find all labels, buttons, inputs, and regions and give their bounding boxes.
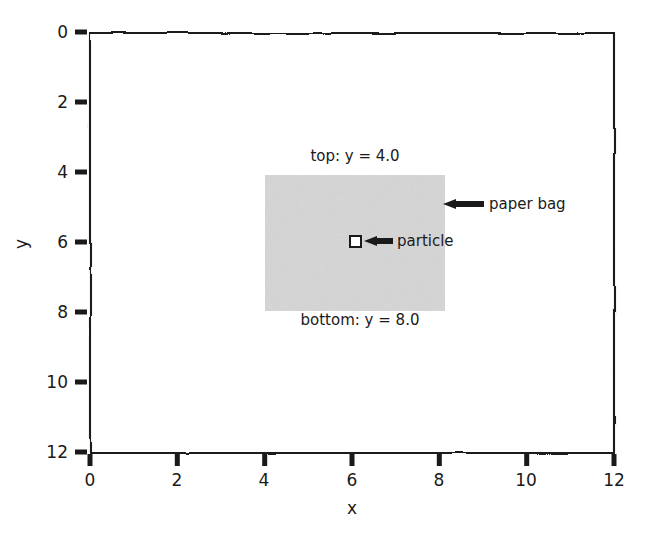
x-tick-12 <box>612 454 617 466</box>
particle-square-icon <box>350 236 361 247</box>
x-axis-title: x <box>332 498 372 518</box>
x-tick-10 <box>524 454 529 466</box>
particle-marker <box>350 236 361 247</box>
bag-bottom-annotation: bottom: y = 8.0 <box>265 311 455 329</box>
x-tick-6 <box>350 454 355 466</box>
x-axis-ticks <box>88 454 617 466</box>
x-tick-label-10: 10 <box>506 470 546 490</box>
x-tick-2 <box>175 454 180 466</box>
y-tick-6 <box>75 240 87 245</box>
y-tick-label-6: 6 <box>28 232 68 252</box>
x-tick-label-8: 8 <box>419 470 459 490</box>
paper-bag-arrow <box>443 199 484 209</box>
y-tick-0 <box>75 30 87 35</box>
y-tick-label-8: 8 <box>28 302 68 322</box>
chart-canvas <box>0 0 652 534</box>
x-tick-label-0: 0 <box>70 470 110 490</box>
x-tick-label-6: 6 <box>332 470 372 490</box>
y-tick-12 <box>75 450 87 455</box>
x-tick-8 <box>437 454 442 466</box>
chart-figure: 0 2 4 6 8 10 12 0 2 4 6 8 10 12 y x top:… <box>0 0 652 534</box>
y-tick-label-2: 2 <box>28 92 68 112</box>
y-tick-2 <box>75 100 87 105</box>
particle-annotation: particle <box>397 232 454 250</box>
x-tick-label-4: 4 <box>244 470 284 490</box>
y-tick-10 <box>75 380 87 385</box>
y-tick-label-12: 12 <box>28 442 68 462</box>
x-tick-label-2: 2 <box>157 470 197 490</box>
y-tick-4 <box>75 170 87 175</box>
y-tick-label-0: 0 <box>28 22 68 42</box>
x-tick-4 <box>262 454 267 466</box>
paper-bag-annotation: paper bag <box>489 195 566 213</box>
y-tick-8 <box>75 310 87 315</box>
x-tick-label-12: 12 <box>594 470 634 490</box>
y-tick-label-10: 10 <box>28 372 68 392</box>
x-tick-0 <box>88 454 93 466</box>
y-axis-ticks <box>75 30 87 455</box>
y-axis-title: y <box>11 229 31 259</box>
y-tick-label-4: 4 <box>28 162 68 182</box>
bag-top-annotation: top: y = 4.0 <box>275 147 435 165</box>
